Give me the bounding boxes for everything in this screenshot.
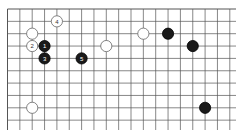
black-stone: 1 [39,40,50,51]
black-stone [162,28,173,39]
black-stone [200,102,211,113]
white-stone [101,40,112,51]
go-board: 42135 [0,0,236,138]
black-stone: 5 [76,53,87,64]
white-stone: 4 [51,16,62,27]
white-stone: 2 [27,40,38,51]
white-stone [27,102,38,113]
black-stone [187,40,198,51]
white-stone [138,28,149,39]
black-stone: 3 [39,53,50,64]
white-stone [27,28,38,39]
